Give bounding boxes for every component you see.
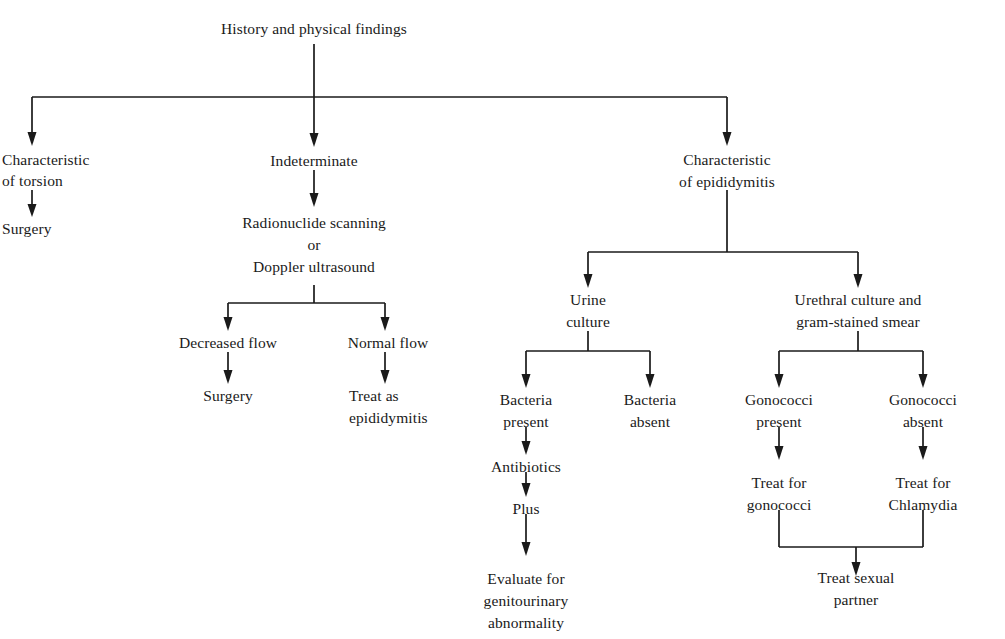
arrowhead-plus-evaluate bbox=[522, 542, 531, 556]
node-treat-as-epididymitis-line1: Treat as bbox=[349, 387, 399, 404]
node-characteristic-of-epididymitis-line2: of epididymitis bbox=[679, 173, 775, 190]
node-urethral-culture-line1: Urethral culture and bbox=[795, 291, 922, 308]
node-imaging-line2: or bbox=[307, 236, 321, 253]
flowchart-canvas: History and physical findings Characteri… bbox=[0, 0, 1005, 639]
arrowhead-to-bacteria-present bbox=[522, 374, 531, 388]
node-normal-flow: Normal flow bbox=[348, 334, 429, 351]
node-gonococci-absent-line1: Gonococci bbox=[889, 391, 958, 408]
arrowhead-to-decreased-flow bbox=[224, 317, 233, 331]
arrowhead-gono-absent-treat bbox=[919, 446, 928, 460]
arrowhead-to-torsion bbox=[28, 132, 37, 146]
node-indeterminate: Indeterminate bbox=[270, 152, 357, 169]
arrowhead-to-indeterminate bbox=[310, 133, 319, 147]
arrowhead-to-gonococci-absent bbox=[919, 374, 928, 388]
node-urine-culture-line1: Urine bbox=[570, 291, 606, 308]
node-treat-for-gonococci-line1: Treat for bbox=[752, 474, 808, 491]
node-imaging-line1: Radionuclide scanning bbox=[242, 214, 386, 231]
node-characteristic-of-epididymitis-line1: Characteristic bbox=[683, 151, 770, 168]
node-treat-as-epididymitis-line2: epididymitis bbox=[349, 409, 428, 426]
flowchart-root: History and physical findings Characteri… bbox=[0, 0, 1005, 639]
node-treat-for-chlamydia-line2: Chlamydia bbox=[889, 496, 958, 513]
arrowhead-present-antibiotics bbox=[522, 441, 531, 455]
arrowhead-decreased-surgery bbox=[224, 370, 233, 384]
node-gonococci-absent-line2: absent bbox=[903, 413, 944, 430]
node-flow-surgery: Surgery bbox=[203, 387, 253, 404]
node-evaluate-gu-line3: abnormality bbox=[488, 614, 564, 631]
node-bacteria-absent-line2: absent bbox=[630, 413, 671, 430]
arrowhead-to-bacteria-absent bbox=[646, 374, 655, 388]
arrowhead-to-epididymitis bbox=[723, 132, 732, 146]
arrowhead-gono-present-treat bbox=[775, 446, 784, 460]
node-decreased-flow: Decreased flow bbox=[179, 334, 278, 351]
node-bacteria-absent-line1: Bacteria bbox=[624, 391, 676, 408]
node-treat-for-gonococci-line2: gonococci bbox=[747, 496, 812, 513]
node-urethral-culture-line2: gram-stained smear bbox=[796, 313, 920, 330]
node-bacteria-present-line1: Bacteria bbox=[500, 391, 552, 408]
node-evaluate-gu-line2: genitourinary bbox=[484, 592, 569, 609]
node-urine-culture-line2: culture bbox=[566, 313, 610, 330]
node-characteristic-of-torsion-line2: of torsion bbox=[2, 172, 63, 189]
node-plus: Plus bbox=[512, 500, 539, 517]
node-treat-sexual-partner-line2: partner bbox=[834, 591, 879, 608]
node-bacteria-present-line2: present bbox=[503, 413, 549, 430]
arrowhead-torsion-surgery bbox=[28, 204, 37, 217]
node-antibiotics: Antibiotics bbox=[491, 458, 561, 475]
node-evaluate-gu-line1: Evaluate for bbox=[487, 570, 565, 587]
node-imaging-line3: Doppler ultrasound bbox=[253, 258, 375, 275]
arrowhead-indeterminate-imaging bbox=[310, 193, 319, 207]
node-characteristic-of-torsion-line1: Characteristic bbox=[2, 151, 89, 168]
arrowhead-antibiotics-plus bbox=[522, 483, 531, 497]
arrowhead-to-normal-flow bbox=[381, 317, 390, 331]
arrowhead-to-urethral-culture bbox=[854, 274, 863, 288]
node-torsion-surgery: Surgery bbox=[2, 220, 52, 237]
label-layer: History and physical findings Characteri… bbox=[2, 20, 958, 631]
node-gonococci-present-line2: present bbox=[756, 413, 802, 430]
arrowhead-to-urine-culture bbox=[584, 274, 593, 288]
node-treat-sexual-partner-line1: Treat sexual bbox=[818, 569, 895, 586]
node-history-and-physical-findings: History and physical findings bbox=[221, 20, 407, 37]
arrowhead-normal-treat bbox=[381, 370, 390, 384]
arrowhead-to-gonococci-present bbox=[775, 374, 784, 388]
node-gonococci-present-line1: Gonococci bbox=[745, 391, 814, 408]
node-treat-for-chlamydia-line1: Treat for bbox=[896, 474, 952, 491]
